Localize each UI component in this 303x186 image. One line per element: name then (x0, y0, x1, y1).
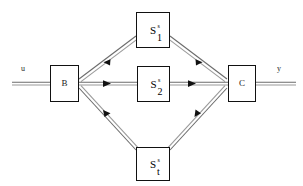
wire-s1-to-c (168, 36, 227, 82)
node-s1-subscript: 1 (157, 32, 162, 43)
wire-input-to-b (12, 82, 50, 85)
wire-b-to-st (79, 86, 138, 150)
node-s2-base: S (150, 78, 156, 90)
wire-s2-to-c (170, 80, 228, 87)
block-diagram: u y B C S s 1 S s 2 S s t (0, 0, 303, 186)
node-st-superscript: s (157, 157, 159, 163)
node-st-base: S (150, 158, 156, 170)
node-s1-label: S s 1 (150, 24, 156, 36)
wire-b-to-s2 (79, 80, 137, 87)
node-b[interactable]: B (50, 65, 79, 102)
node-s1-superscript: s (157, 23, 159, 29)
arrowhead-s2-to-c (188, 80, 196, 87)
node-b-label: B (61, 79, 67, 88)
wire-c-to-output (256, 82, 296, 85)
input-label-u: u (21, 64, 25, 73)
node-st-subscript: t (157, 166, 160, 177)
wire-st-to-c (168, 86, 227, 150)
output-label-y: y (277, 64, 281, 73)
node-s2-subscript: 2 (157, 86, 162, 97)
node-s1[interactable]: S s 1 (136, 12, 170, 48)
node-s1-base: S (150, 24, 156, 36)
node-c-label: C (239, 79, 245, 88)
node-st-label: S s t (150, 158, 156, 170)
node-c[interactable]: C (228, 65, 256, 102)
node-s2-label: S s 2 (150, 78, 156, 90)
node-s2-superscript: s (158, 77, 160, 83)
arrowhead-b-to-s2 (103, 80, 111, 87)
wire-b-to-s1 (79, 36, 138, 82)
node-s2[interactable]: S s 2 (137, 66, 170, 102)
node-st[interactable]: S s t (136, 147, 170, 181)
